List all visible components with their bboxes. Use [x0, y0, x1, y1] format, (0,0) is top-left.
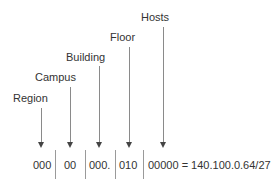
segment-region: 000	[33, 159, 51, 171]
arrow-line-floor	[129, 47, 130, 144]
segment-campus: 00	[64, 159, 76, 171]
segment-hosts-result: 00000 = 140.100.0.64/27	[148, 159, 271, 171]
arrowhead-down-icon	[126, 142, 132, 148]
arrowhead-down-icon	[160, 142, 166, 148]
segment-divider	[143, 150, 144, 179]
arrow-line-building	[99, 66, 100, 144]
label-region: Region	[13, 92, 48, 104]
arrowhead-down-icon	[67, 142, 73, 148]
arrowhead-down-icon	[96, 142, 102, 148]
label-campus: Campus	[35, 71, 76, 83]
segment-building: 000.	[89, 159, 110, 171]
segment-floor: 010	[119, 159, 137, 171]
segment-divider	[55, 150, 56, 179]
label-building: Building	[66, 51, 105, 63]
arrowhead-down-icon	[38, 142, 44, 148]
segment-divider	[85, 150, 86, 179]
label-floor: Floor	[110, 31, 135, 43]
arrow-line-campus	[70, 87, 71, 144]
label-hosts: Hosts	[141, 11, 169, 23]
arrow-line-region	[41, 108, 42, 144]
arrow-line-hosts	[163, 27, 164, 144]
segment-divider	[115, 150, 116, 179]
